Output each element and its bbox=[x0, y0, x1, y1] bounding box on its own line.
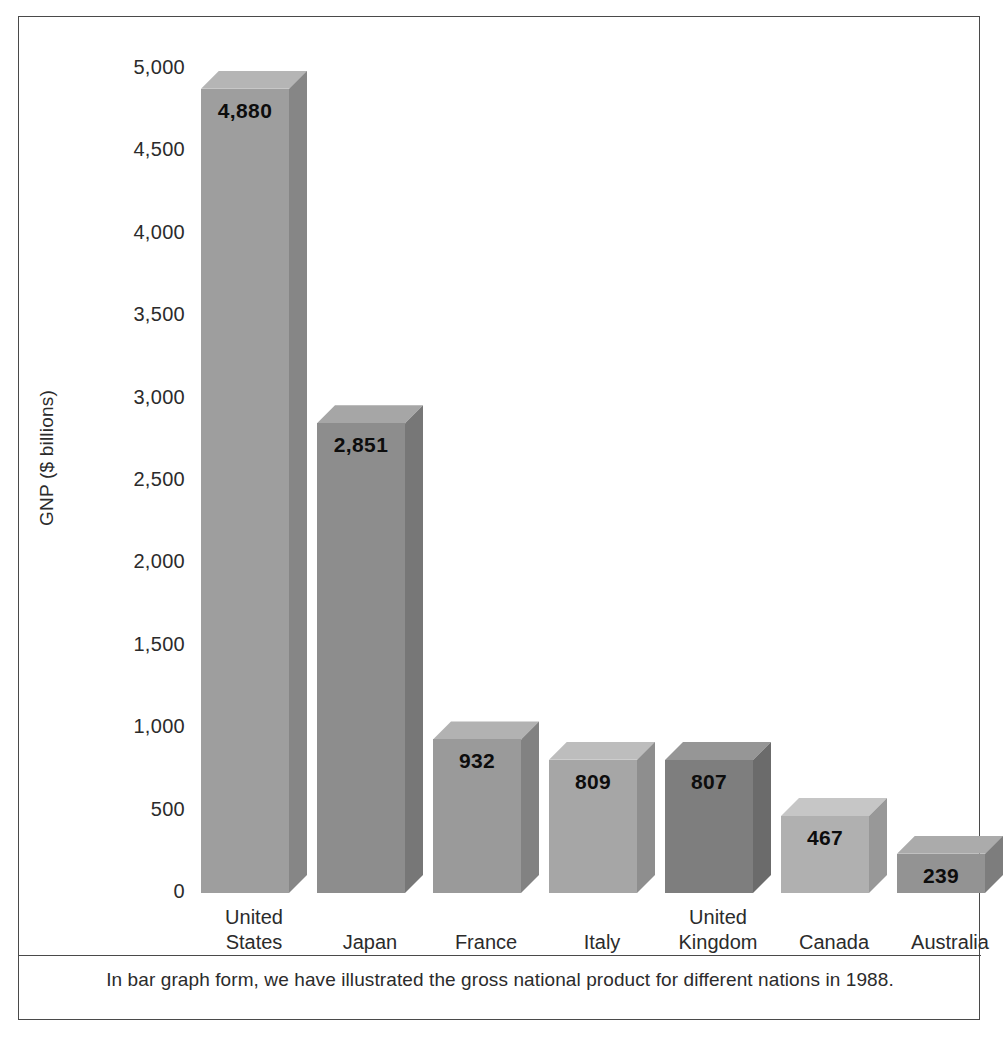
x-axis-tick-canada: Canada bbox=[769, 930, 899, 955]
bar-canada: 467 bbox=[781, 798, 869, 893]
y-axis-tick-3000: 3,000 bbox=[59, 386, 185, 409]
bar-top-face bbox=[201, 71, 307, 89]
bar-value-label: 467 bbox=[781, 826, 869, 850]
x-axis-tick-france: France bbox=[421, 930, 551, 955]
x-axis-tick-italy: Italy bbox=[537, 930, 667, 955]
plot-bars: 4,8802,851932809807467239 bbox=[195, 69, 955, 893]
bar-side-face bbox=[637, 742, 655, 893]
bar-value-label: 2,851 bbox=[317, 433, 405, 457]
bar-united-kingdom: 807 bbox=[665, 742, 753, 893]
figure-caption: In bar graph form, we have illustrated t… bbox=[19, 969, 981, 991]
bar-side-face bbox=[753, 742, 771, 893]
bar-top-face bbox=[317, 405, 423, 423]
bar-top-face bbox=[433, 721, 539, 739]
y-axis-title: GNP ($ billions) bbox=[36, 338, 58, 578]
bar-italy: 809 bbox=[549, 742, 637, 893]
bar-side-face bbox=[289, 71, 307, 893]
bar-value-label: 239 bbox=[897, 864, 985, 888]
y-axis-tick-1000: 1,000 bbox=[59, 715, 185, 738]
bar-value-label: 807 bbox=[665, 770, 753, 794]
y-axis-tick-500: 500 bbox=[59, 798, 185, 821]
bar-top-face bbox=[781, 798, 887, 816]
figure-frame: GNP ($ billions) 5,0004,5004,0003,5003,0… bbox=[18, 16, 980, 1020]
x-axis-tick-united-states: United States bbox=[189, 905, 319, 955]
bar-chart: GNP ($ billions) 5,0004,5004,0003,5003,0… bbox=[19, 17, 981, 1021]
bar-side-face bbox=[521, 721, 539, 893]
bar-japan: 2,851 bbox=[317, 405, 405, 893]
y-axis-tick-5000: 5,000 bbox=[59, 56, 185, 79]
y-axis-tick-3500: 3,500 bbox=[59, 303, 185, 326]
x-axis-tick-united-kingdom: United Kingdom bbox=[653, 905, 783, 955]
y-axis-tick-4000: 4,000 bbox=[59, 221, 185, 244]
bar-top-face bbox=[897, 836, 1003, 854]
y-axis-tick-0: 0 bbox=[59, 880, 185, 903]
y-axis-tick-2500: 2,500 bbox=[59, 468, 185, 491]
x-axis-tick-australia: Australia bbox=[885, 930, 1007, 955]
x-axis-tick-japan: Japan bbox=[305, 930, 435, 955]
bar-value-label: 809 bbox=[549, 770, 637, 794]
bar-top-face bbox=[665, 742, 771, 760]
bar-top-face bbox=[549, 742, 655, 760]
y-axis-tick-2000: 2,000 bbox=[59, 550, 185, 573]
y-axis-tick-4500: 4,500 bbox=[59, 138, 185, 161]
caption-divider bbox=[19, 955, 981, 956]
bar-front-face bbox=[201, 89, 289, 893]
bar-front-face bbox=[317, 423, 405, 893]
bar-australia: 239 bbox=[897, 836, 985, 893]
bar-value-label: 4,880 bbox=[201, 99, 289, 123]
bar-france: 932 bbox=[433, 721, 521, 893]
y-axis-tick-1500: 1,500 bbox=[59, 633, 185, 656]
bar-side-face bbox=[405, 405, 423, 893]
bar-value-label: 932 bbox=[433, 749, 521, 773]
bar-united-states: 4,880 bbox=[201, 71, 289, 893]
